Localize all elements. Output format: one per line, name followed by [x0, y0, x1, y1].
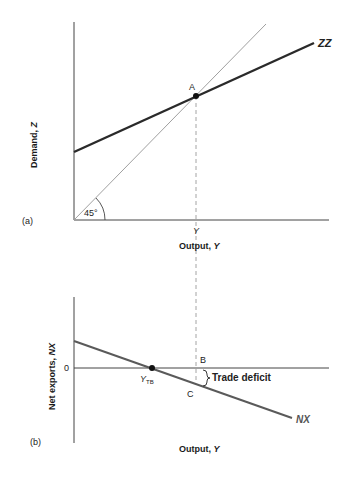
zz-label: ZZ — [318, 38, 331, 49]
panel-a-x-tick: Y — [193, 227, 199, 236]
point-c-label: C — [187, 390, 194, 399]
zero-tick-label: 0 — [64, 364, 69, 373]
point-a-marker — [193, 93, 199, 99]
panel-b-y-axis-var: NX — [47, 343, 57, 356]
panel-b-x-axis-title-text: Output, — [179, 444, 214, 454]
ytb-point-marker — [149, 365, 155, 371]
panel-a-x-axis-title: Output, Y — [179, 242, 220, 251]
panel-b-tag: (b) — [30, 438, 41, 447]
panel-a-x-axis-title-text: Output, — [179, 241, 214, 251]
trade-deficit-brace — [203, 370, 210, 386]
panel-b-x-axis-title: Output, Y — [179, 445, 220, 454]
nx-label: NX — [296, 415, 310, 425]
point-b-label: B — [200, 356, 206, 365]
ytb-subscript: TB — [146, 379, 154, 385]
point-a-label: A — [189, 83, 195, 92]
panel-a-x-axis-var: Y — [214, 241, 220, 251]
panel-a-tag: (a) — [22, 217, 33, 226]
panel-b-y-axis-title: Net exports, NX — [48, 343, 57, 410]
panel-b-x-axis-var: Y — [214, 444, 220, 454]
panel-a-y-axis-title: Demand, Z — [30, 122, 39, 168]
angle-label: 45° — [84, 209, 98, 218]
ytb-label: YTB — [140, 375, 154, 385]
panel-a-y-axis-title-text: Demand, — [29, 127, 39, 168]
line-45-degree — [74, 24, 266, 220]
panel-b-y-axis-title-text: Net exports, — [47, 355, 57, 410]
trade-deficit-label: Trade deficit — [212, 373, 271, 383]
panel-a-y-axis-var: Z — [29, 122, 39, 128]
